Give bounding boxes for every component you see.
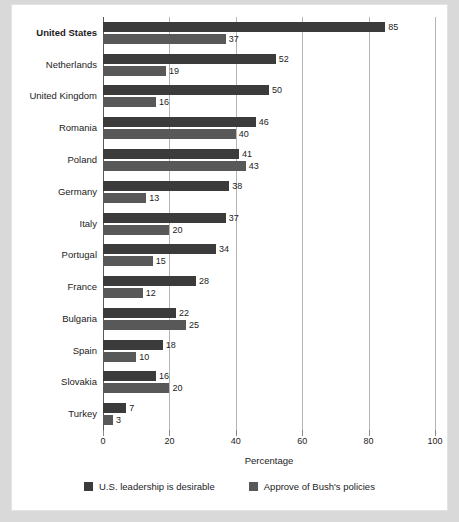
bar: [103, 244, 216, 254]
bar-group: 73: [103, 403, 435, 425]
category-label: France: [67, 282, 97, 292]
bar: [103, 181, 229, 191]
legend-label: U.S. leadership is desirable: [99, 481, 215, 492]
bar-value-label: 52: [279, 54, 289, 63]
bar-group: 5016: [103, 85, 435, 107]
bar: [103, 276, 196, 286]
category-label: Portugal: [62, 251, 97, 261]
bar: [103, 193, 146, 203]
bar: [103, 340, 163, 350]
bar: [103, 225, 169, 235]
chart-figure: United StatesNetherlandsUnited KingdomRo…: [12, 5, 447, 510]
bar: [103, 308, 176, 318]
legend-label: Approve of Bush's policies: [264, 481, 375, 492]
bar-row: 12: [103, 288, 435, 298]
bar-value-label: 10: [139, 352, 149, 361]
bar-value-label: 34: [219, 245, 229, 254]
bar-value-label: 18: [166, 340, 176, 349]
bar-group: 1810: [103, 340, 435, 362]
bar-value-label: 37: [229, 34, 239, 43]
bar-group: 5219: [103, 54, 435, 76]
bar-value-label: 16: [159, 98, 169, 107]
bar-value-label: 20: [172, 384, 182, 393]
bar-row: 37: [103, 34, 435, 44]
bar-value-label: 20: [172, 225, 182, 234]
bar: [103, 85, 269, 95]
bar-value-label: 12: [146, 289, 156, 298]
bar-value-label: 46: [259, 118, 269, 127]
category-label: Spain: [73, 346, 97, 356]
bar-value-label: 13: [149, 193, 159, 202]
bar-row: 18: [103, 340, 435, 350]
bar-value-label: 28: [199, 277, 209, 286]
x-tick-label: 80: [364, 437, 374, 446]
x-axis: 020406080100: [103, 430, 435, 452]
bar-row: 38: [103, 181, 435, 191]
bar-row: 22: [103, 308, 435, 318]
bar: [103, 117, 256, 127]
bar: [103, 66, 166, 76]
bar-row: 16: [103, 371, 435, 381]
bar-value-label: 37: [229, 213, 239, 222]
bar: [103, 34, 226, 44]
bar: [103, 129, 236, 139]
bar-value-label: 15: [156, 257, 166, 266]
bar: [103, 352, 136, 362]
bar: [103, 383, 169, 393]
bar: [103, 149, 239, 159]
bar: [103, 22, 385, 32]
bar-value-label: 50: [272, 86, 282, 95]
bar-row: 43: [103, 161, 435, 171]
x-tick-label: 20: [164, 437, 174, 446]
bar-row: 52: [103, 54, 435, 64]
x-axis-title: Percentage: [103, 455, 435, 466]
category-label: Bulgaria: [62, 314, 97, 324]
category-label: Turkey: [68, 409, 97, 419]
bar-value-label: 22: [179, 308, 189, 317]
bar-group: 4640: [103, 117, 435, 139]
bar-group: 2812: [103, 276, 435, 298]
bar: [103, 403, 126, 413]
bar-row: 15: [103, 256, 435, 266]
bar-row: 46: [103, 117, 435, 127]
bar: [103, 256, 153, 266]
bar: [103, 288, 143, 298]
bar-value-label: 25: [189, 320, 199, 329]
chart-legend: U.S. leadership is desirableApprove of B…: [12, 481, 447, 492]
bar-row: 13: [103, 193, 435, 203]
x-tick-label: 0: [100, 437, 105, 446]
category-label: United Kingdom: [29, 92, 97, 102]
bar-group: 2225: [103, 308, 435, 330]
legend-swatch-icon: [84, 482, 93, 491]
bar-row: 3: [103, 415, 435, 425]
bar-value-label: 3: [116, 416, 121, 425]
bar-row: 16: [103, 97, 435, 107]
legend-swatch-icon: [249, 482, 258, 491]
bar-group: 4143: [103, 149, 435, 171]
bar-row: 19: [103, 66, 435, 76]
bar: [103, 54, 276, 64]
x-tick-label: 40: [231, 437, 241, 446]
bar-value-label: 85: [388, 22, 398, 31]
bar-row: 34: [103, 244, 435, 254]
bar-row: 37: [103, 213, 435, 223]
bar-row: 50: [103, 85, 435, 95]
category-axis-labels: United StatesNetherlandsUnited KingdomRo…: [12, 17, 97, 430]
bar-value-label: 43: [249, 161, 259, 170]
gridline-100: [435, 17, 436, 430]
bar: [103, 97, 156, 107]
bar: [103, 371, 156, 381]
legend-item: U.S. leadership is desirable: [84, 481, 215, 492]
category-label: Netherlands: [46, 60, 97, 70]
plot-area: 8537521950164640414338133720341528122225…: [103, 17, 435, 430]
bar: [103, 161, 246, 171]
bar-value-label: 16: [159, 372, 169, 381]
bar-group: 3813: [103, 181, 435, 203]
bar: [103, 415, 113, 425]
bar-value-label: 38: [232, 181, 242, 190]
bar-group: 3720: [103, 213, 435, 235]
bar: [103, 213, 226, 223]
bar-value-label: 7: [129, 404, 134, 413]
bar-row: 20: [103, 225, 435, 235]
bar-row: 41: [103, 149, 435, 159]
